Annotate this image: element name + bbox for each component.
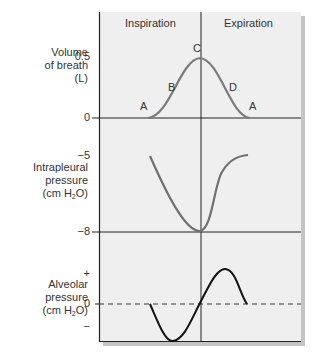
tick-minus: − — [66, 320, 90, 332]
unit-prefix: (cm H — [43, 187, 72, 199]
point-a-end: A — [249, 100, 256, 112]
tick-0: 0 — [66, 111, 90, 123]
intrapleural-axis-label: Intrapleural pressure (cm H2O) — [33, 161, 88, 203]
expiration-label: Expiration — [224, 17, 273, 29]
unit-line: (cm H2O) — [33, 187, 88, 203]
respiration-diagram: Inspiration Expiration Volume of breath … — [0, 0, 312, 352]
intrapleural-curve — [150, 155, 248, 231]
label-line: (L) — [45, 72, 88, 85]
point-b: B — [168, 81, 175, 93]
point-d: D — [229, 81, 237, 93]
point-c: C — [193, 42, 201, 54]
label-line: Alveolar — [43, 278, 88, 291]
tick-0.5: 0.5 — [66, 50, 90, 62]
tick-minus5: −5 — [66, 149, 90, 161]
tick-zero: 0 — [66, 297, 90, 309]
tick-plus: + — [66, 267, 90, 279]
label-line: Intrapleural — [33, 161, 88, 174]
point-a-start: A — [140, 100, 147, 112]
label-line: pressure — [33, 174, 88, 187]
inspiration-label: Inspiration — [125, 17, 176, 29]
alveolar-curve — [150, 269, 247, 341]
tick-minus8: −8 — [66, 225, 90, 237]
unit-suffix: O) — [76, 187, 88, 199]
